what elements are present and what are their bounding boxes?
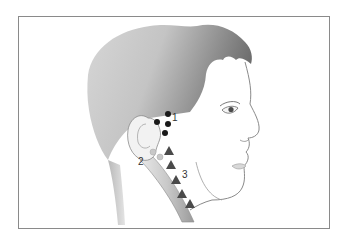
node-marker-triangle [166, 160, 176, 169]
nostril [240, 139, 249, 141]
hair-shape [87, 25, 252, 160]
neck-back [108, 160, 125, 225]
node-marker-dot [165, 111, 171, 117]
node-marker-triangle [185, 199, 195, 208]
node-marker-dot [154, 119, 160, 125]
node-marker-light [157, 154, 163, 160]
label-3: 3 [182, 170, 188, 180]
node-marker-triangle [164, 146, 174, 155]
label-2: 2 [138, 157, 144, 167]
node-marker-light [150, 149, 156, 155]
neck-muscle [140, 156, 194, 222]
jaw-line [196, 162, 222, 200]
label-1: 1 [172, 113, 178, 123]
node-marker-triangle [171, 175, 181, 184]
node-marker-dot [162, 130, 168, 136]
node-marker-dot [165, 121, 171, 127]
eye [220, 102, 240, 114]
